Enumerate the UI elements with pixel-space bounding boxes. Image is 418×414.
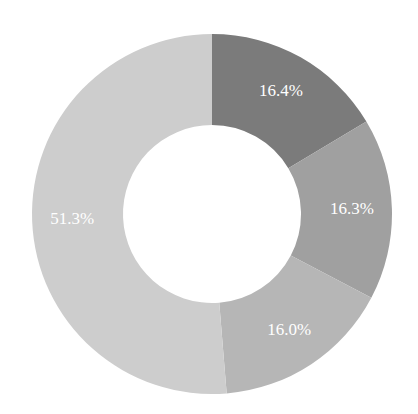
- donut-chart: 16.4% 16.3% 16.0% 51.3%: [0, 0, 418, 414]
- slice-label-3: 16.0%: [267, 320, 311, 339]
- slice-label-2: 16.3%: [330, 199, 374, 218]
- slice-label-4: 51.3%: [50, 209, 94, 228]
- slice-label-1: 16.4%: [259, 81, 303, 100]
